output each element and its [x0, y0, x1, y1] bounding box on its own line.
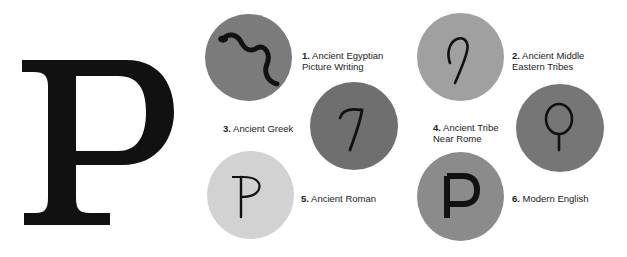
- stage-2-number: 2.: [512, 50, 520, 61]
- stage-4-number: 4.: [433, 122, 441, 133]
- loop-stem-icon: [516, 84, 604, 172]
- stage-1-label-line1: Ancient Egyptian: [312, 50, 383, 61]
- stage-2-label-line2: Eastern Tribes: [512, 61, 573, 72]
- stage-3-disc: [310, 82, 398, 170]
- stage-2-disc: [417, 13, 504, 101]
- stage-3-label-line1: Ancient Greek: [233, 123, 293, 134]
- snake-icon: [205, 14, 292, 101]
- stage-6-disc: [417, 152, 504, 241]
- stage-1-disc: [205, 14, 292, 101]
- stage-2-caption: 2. Ancient Middle Eastern Tribes: [512, 50, 584, 72]
- large-letter-p: [14, 20, 179, 225]
- stage-1-label-line2: Picture Writing: [302, 61, 364, 72]
- hook-icon: [417, 13, 504, 101]
- stage-6-label-line1: Modern English: [523, 193, 589, 204]
- stage-4-label-line1: Ancient Tribe: [443, 122, 498, 133]
- stage-5-number: 5.: [301, 193, 309, 204]
- stage-1-caption: 1. Ancient Egyptian Picture Writing: [302, 50, 383, 72]
- stage-2-label-line1: Ancient Middle: [522, 50, 584, 61]
- stage-6-number: 6.: [512, 193, 520, 204]
- stage-1-number: 1.: [302, 50, 310, 61]
- roman-p-icon: [207, 151, 294, 239]
- stage-5-label-line1: Ancient Roman: [311, 193, 376, 204]
- modern-p-icon: [417, 152, 504, 241]
- stage-3-number: 3.: [223, 123, 231, 134]
- greek-pi-7-icon: [310, 82, 398, 170]
- stage-6-caption: 6. Modern English: [512, 193, 589, 204]
- stage-4-caption: 4. Ancient Tribe Near Rome: [433, 122, 499, 144]
- stage-4-label-line2: Near Rome: [433, 133, 482, 144]
- stage-5-caption: 5. Ancient Roman: [301, 193, 376, 204]
- stage-3-caption: 3. Ancient Greek: [223, 123, 293, 134]
- stage-5-disc: [207, 151, 294, 239]
- stage-4-disc: [516, 84, 604, 172]
